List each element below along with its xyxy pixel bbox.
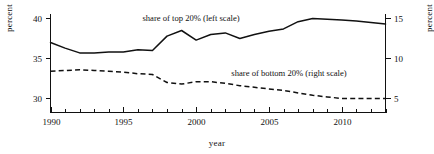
y-axis-title-left: percent [4, 0, 14, 48]
x-tick-label: 2010 [334, 117, 353, 127]
x-tick-label: 2000 [188, 117, 207, 127]
left-tick-label-40: 40 [33, 14, 43, 24]
axis-left: 40 35 30 [33, 14, 51, 113]
annotation-bottom-20-label: share of bottom 20% (right scale) [231, 68, 346, 78]
y-axis-title-right: percent [424, 0, 434, 48]
x-axis-title: year [0, 138, 434, 148]
x-minor-ticks [52, 109, 387, 113]
x-tick-label: 2005 [261, 117, 280, 127]
axis-bottom: 19901995200020052010 [43, 107, 387, 127]
x-tick-labels: 19901995200020052010 [43, 117, 353, 127]
annotation-top-20-label: share of top 20% (left scale) [142, 13, 239, 23]
chart-figure: 40 35 30 15 10 5 19901995200020052010 sh… [0, 0, 434, 154]
left-tick-label-35: 35 [33, 54, 43, 64]
series-line-top-20 [51, 19, 386, 53]
right-tick-label-5: 5 [394, 94, 399, 104]
x-tick-label: 1995 [115, 117, 134, 127]
right-tick-label-15: 15 [394, 14, 404, 24]
line-chart-canvas: 40 35 30 15 10 5 19901995200020052010 sh… [0, 0, 434, 154]
right-tick-label-10: 10 [394, 54, 404, 64]
axis-right: 15 10 5 [386, 14, 404, 113]
x-tick-label: 1990 [43, 117, 62, 127]
left-tick-label-30: 30 [33, 94, 43, 104]
